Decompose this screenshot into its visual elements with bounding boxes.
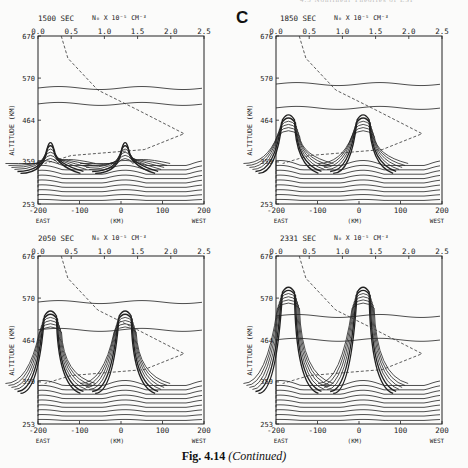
svg-text:100: 100 bbox=[156, 426, 170, 435]
svg-text:EAST: EAST bbox=[36, 217, 51, 224]
svg-text:ALTITUDE (KM): ALTITUDE (KM) bbox=[8, 325, 16, 376]
svg-text:2.5: 2.5 bbox=[197, 247, 211, 256]
svg-text:ALTITUDE (KM): ALTITUDE (KM) bbox=[246, 325, 254, 376]
svg-text:2.0: 2.0 bbox=[402, 247, 416, 256]
svg-text:676: 676 bbox=[260, 253, 273, 261]
svg-text:0: 0 bbox=[119, 206, 124, 215]
svg-text:(KM): (KM) bbox=[110, 437, 124, 444]
svg-text:-100: -100 bbox=[70, 426, 89, 435]
svg-text:2.0: 2.0 bbox=[164, 247, 178, 256]
svg-text:ALTITUDE (KM): ALTITUDE (KM) bbox=[246, 105, 254, 156]
svg-text:0.5: 0.5 bbox=[302, 247, 316, 256]
svg-text:200: 200 bbox=[435, 206, 449, 215]
caption-main: Fig. 4.14 bbox=[182, 449, 226, 463]
svg-text:570: 570 bbox=[22, 295, 35, 303]
svg-text:570: 570 bbox=[260, 75, 273, 83]
svg-text:0.5: 0.5 bbox=[64, 247, 78, 256]
svg-text:WEST: WEST bbox=[192, 437, 207, 444]
svg-text:WEST: WEST bbox=[192, 217, 207, 224]
svg-text:EAST: EAST bbox=[36, 437, 51, 444]
contour-plot: 0.00.51.01.52.02.5676570464359253-200-10… bbox=[0, 14, 230, 239]
svg-text:1.5: 1.5 bbox=[131, 247, 145, 256]
svg-text:1.5: 1.5 bbox=[369, 27, 383, 36]
svg-text:2.5: 2.5 bbox=[435, 247, 449, 256]
svg-text:1.0: 1.0 bbox=[98, 27, 112, 36]
svg-text:-200: -200 bbox=[267, 206, 286, 215]
svg-text:200: 200 bbox=[197, 426, 211, 435]
svg-text:1.5: 1.5 bbox=[131, 27, 145, 36]
svg-text:1.0: 1.0 bbox=[98, 247, 112, 256]
svg-text:100: 100 bbox=[394, 426, 408, 435]
figure-caption: Fig. 4.14 (Continued) bbox=[0, 449, 468, 464]
svg-text:570: 570 bbox=[22, 75, 35, 83]
svg-text:464: 464 bbox=[22, 117, 35, 125]
svg-text:-100: -100 bbox=[308, 206, 327, 215]
svg-text:EAST: EAST bbox=[274, 217, 289, 224]
svg-text:2.0: 2.0 bbox=[402, 27, 416, 36]
svg-text:676: 676 bbox=[260, 33, 273, 41]
svg-text:-100: -100 bbox=[70, 206, 89, 215]
svg-text:EAST: EAST bbox=[274, 437, 289, 444]
contour-plot: 0.00.51.01.52.02.5676570464359253-200-10… bbox=[0, 234, 230, 459]
caption-suffix: (Continued) bbox=[228, 449, 286, 463]
svg-text:1.0: 1.0 bbox=[336, 27, 350, 36]
svg-text:(KM): (KM) bbox=[110, 217, 124, 224]
svg-text:1.0: 1.0 bbox=[336, 247, 350, 256]
svg-text:2.0: 2.0 bbox=[164, 27, 178, 36]
svg-text:676: 676 bbox=[22, 253, 35, 261]
svg-text:-200: -200 bbox=[29, 206, 48, 215]
svg-text:0: 0 bbox=[119, 426, 124, 435]
svg-text:100: 100 bbox=[394, 206, 408, 215]
svg-text:0.5: 0.5 bbox=[64, 27, 78, 36]
svg-text:2.5: 2.5 bbox=[435, 27, 449, 36]
svg-text:464: 464 bbox=[260, 117, 273, 125]
svg-text:200: 200 bbox=[435, 426, 449, 435]
contour-plot: 0.00.51.01.52.02.5676570464359253-200-10… bbox=[238, 14, 468, 239]
plot-panel-1850: 1850 SEC N₀ X 10⁻⁵ CM⁻³ 0.00.51.01.52.02… bbox=[238, 14, 468, 239]
svg-text:200: 200 bbox=[197, 206, 211, 215]
svg-text:WEST: WEST bbox=[430, 437, 445, 444]
running-head: 4.5 Nonlinear Theories of ESF bbox=[300, 0, 415, 4]
svg-text:0: 0 bbox=[357, 206, 362, 215]
svg-text:(KM): (KM) bbox=[348, 437, 362, 444]
svg-text:570: 570 bbox=[260, 295, 273, 303]
svg-text:0: 0 bbox=[357, 426, 362, 435]
svg-text:(KM): (KM) bbox=[348, 217, 362, 224]
svg-text:1.5: 1.5 bbox=[369, 247, 383, 256]
plot-panel-2050: 2050 SEC N₀ X 10⁻⁵ CM⁻³ 0.00.51.01.52.02… bbox=[0, 234, 230, 459]
plot-panel-2331: 2331 SEC N₀ X 10⁻⁵ CM⁻³ 0.00.51.01.52.02… bbox=[238, 234, 468, 459]
svg-text:0.5: 0.5 bbox=[302, 27, 316, 36]
svg-text:2.5: 2.5 bbox=[197, 27, 211, 36]
svg-text:100: 100 bbox=[156, 206, 170, 215]
svg-text:-200: -200 bbox=[29, 426, 48, 435]
svg-text:-200: -200 bbox=[267, 426, 286, 435]
svg-text:WEST: WEST bbox=[430, 217, 445, 224]
svg-text:676: 676 bbox=[22, 33, 35, 41]
contour-plot: 0.00.51.01.52.02.5676570464359253-200-10… bbox=[238, 234, 468, 459]
plot-panel-1500: 1500 SEC N₀ X 10⁻⁵ CM⁻³ 0.00.51.01.52.02… bbox=[0, 14, 230, 239]
svg-text:ALTITUDE (KM): ALTITUDE (KM) bbox=[8, 105, 16, 156]
svg-text:-100: -100 bbox=[308, 426, 327, 435]
svg-text:464: 464 bbox=[22, 337, 35, 345]
